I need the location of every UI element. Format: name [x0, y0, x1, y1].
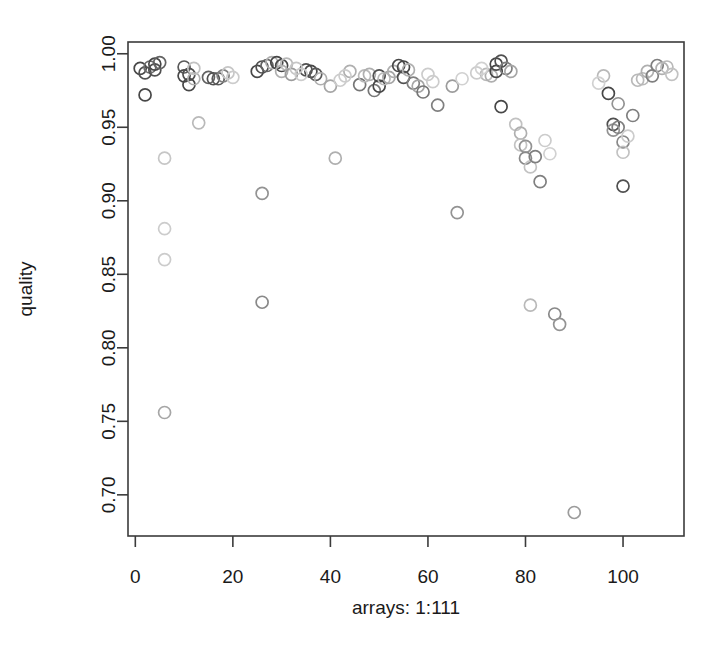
y-tick-label: 0.80 — [99, 329, 120, 366]
y-tick-label: 0.70 — [99, 476, 120, 513]
x-tick-label: 80 — [515, 566, 536, 587]
x-axis-title: arrays: 1:111 — [352, 597, 460, 618]
y-tick-label: 0.95 — [99, 109, 120, 146]
x-tick-label: 100 — [607, 566, 639, 587]
y-tick-label: 0.75 — [99, 403, 120, 440]
scatter-plot-figure: 0.700.750.800.850.900.951.00 02040608010… — [0, 0, 715, 659]
y-tick-label: 1.00 — [99, 35, 120, 72]
y-tick-label: 0.85 — [99, 256, 120, 293]
x-tick-label: 0 — [130, 566, 141, 587]
x-tick-label: 60 — [417, 566, 438, 587]
x-tick-label: 40 — [320, 566, 341, 587]
chart-canvas: 0.700.750.800.850.900.951.00 02040608010… — [0, 0, 715, 659]
y-tick-label: 0.90 — [99, 182, 120, 219]
y-axis-title: quality — [15, 261, 36, 316]
x-tick-label: 20 — [222, 566, 243, 587]
